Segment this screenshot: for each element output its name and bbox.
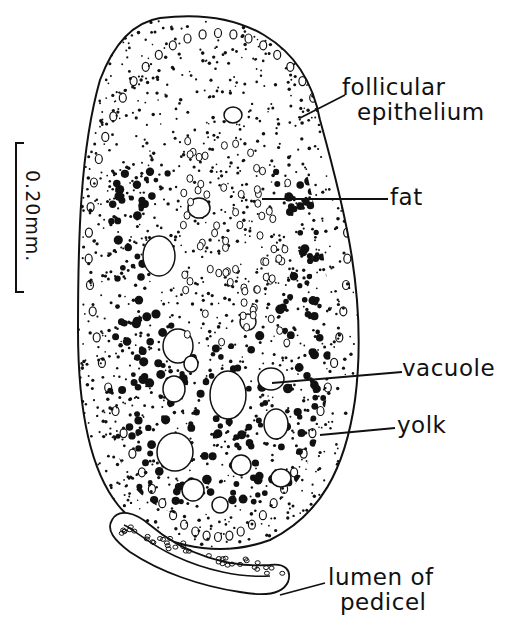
scale-label: 0.20mm. [22, 170, 44, 262]
label-lumen-line2: pedicel [340, 590, 426, 614]
label-lumen-line1: lumen of [328, 565, 434, 589]
label-vacuole: vacuole [402, 356, 495, 380]
label-yolk: yolk [397, 413, 446, 437]
label-follicular-line2: epithelium [357, 100, 485, 124]
label-fat: fat [390, 185, 423, 209]
oocyte-outline [78, 16, 359, 549]
label-follicular-line1: follicular [342, 75, 446, 99]
figure: 0.20mm. follicular epithelium fat vacuol… [0, 0, 524, 637]
